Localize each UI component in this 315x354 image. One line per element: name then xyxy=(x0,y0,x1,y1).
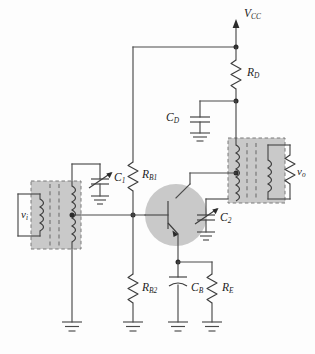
svg-text:vi: vi xyxy=(21,208,28,222)
c2-sub: 2 xyxy=(228,216,232,225)
label-vo: vo xyxy=(297,165,306,179)
svg-text:RD: RD xyxy=(246,66,260,80)
rd-sub: D xyxy=(253,71,260,80)
re-zigzag xyxy=(207,274,217,303)
c1-branch xyxy=(89,164,113,204)
label-vi: vi xyxy=(21,208,28,222)
rb2-zigzag xyxy=(128,274,138,303)
vi-sub: i xyxy=(26,213,28,222)
label-vcc: VCC xyxy=(244,7,261,21)
svg-text:RB2: RB2 xyxy=(141,281,158,295)
rb1-sub: B1 xyxy=(149,173,157,182)
gnd-cd xyxy=(190,133,210,141)
gnd-rb2 xyxy=(123,322,143,331)
emitter-net xyxy=(168,260,222,332)
vcc-sub: CC xyxy=(251,12,261,21)
rb2-base: R xyxy=(141,281,149,293)
label-cb: CB xyxy=(191,281,204,295)
svg-text:CD: CD xyxy=(166,111,180,125)
rd-base: R xyxy=(246,66,254,78)
re-base: R xyxy=(221,281,229,293)
label-re: RE xyxy=(221,281,234,295)
svg-text:C2: C2 xyxy=(220,211,232,225)
vcc-arrowhead xyxy=(233,19,240,28)
label-rd: RD xyxy=(246,66,260,80)
svg-text:CB: CB xyxy=(191,281,204,295)
rb1-zigzag xyxy=(128,162,138,191)
rb1-base: R xyxy=(141,168,149,180)
base-net xyxy=(72,47,145,331)
svg-text:VCC: VCC xyxy=(244,7,261,21)
label-rb1: RB1 xyxy=(141,168,157,182)
circuit-diagram: VCC RD CD RB1 RB2 CB RE C1 C2 xyxy=(0,0,315,354)
vo-sub: o xyxy=(302,170,306,179)
label-c1: C1 xyxy=(114,171,125,185)
cb-sub: B xyxy=(199,286,204,295)
label-c2: C2 xyxy=(220,211,232,225)
re-sub: E xyxy=(228,286,234,295)
gnd-c1 xyxy=(91,196,109,204)
svg-text:C1: C1 xyxy=(114,171,125,185)
svg-text:RB1: RB1 xyxy=(141,168,157,182)
rd-zigzag xyxy=(231,60,241,89)
rd-resistor xyxy=(231,47,241,101)
label-rb2: RB2 xyxy=(141,281,158,295)
svg-text:vo: vo xyxy=(297,165,306,179)
load-resistor-zigzag xyxy=(285,155,295,184)
gnd-t1 xyxy=(62,322,82,331)
circuit-canvas: VCC RD CD RB1 RB2 CB RE C1 C2 xyxy=(0,0,315,354)
c1-sub: 1 xyxy=(122,176,126,185)
gnd-re xyxy=(202,322,222,331)
rb2-sub: B2 xyxy=(149,286,158,295)
gnd-cb xyxy=(168,322,188,331)
cd-sub: D xyxy=(173,116,180,125)
input-transformer-tap-dot xyxy=(70,213,75,218)
label-cd: CD xyxy=(166,111,180,125)
svg-text:RE: RE xyxy=(221,281,234,295)
supply-rail-group xyxy=(133,19,239,50)
cd-branch xyxy=(190,99,239,142)
